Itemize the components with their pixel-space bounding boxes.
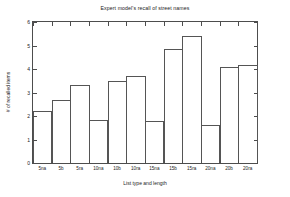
x-tick-label-20ra: 20ra (243, 166, 252, 171)
y-tick-label-1: 1 (27, 137, 30, 143)
y-tick-right-1 (254, 140, 258, 141)
y-tick-label-2: 2 (27, 113, 30, 119)
y-tick-label-0: 0 (27, 160, 30, 166)
bar-15b (164, 49, 183, 163)
x-tick-label-10b: 10b (113, 166, 121, 171)
x-tick-top-12 (257, 22, 258, 26)
y-tick-right-3 (254, 93, 258, 94)
y-tick-4 (33, 69, 37, 70)
x-tick-top-10 (220, 22, 221, 26)
x-tick-label-5na: 5na (38, 166, 46, 171)
x-tick-label-10na: 10na (93, 166, 103, 171)
bar-10b (108, 81, 127, 163)
x-tick-top-1 (52, 22, 53, 26)
bar-5ra (70, 85, 89, 163)
x-tick-top-7 (164, 22, 165, 26)
x-tick-top-5 (126, 22, 127, 26)
bar-10ra (126, 76, 145, 163)
x-tick-label-10ra: 10ra (131, 166, 140, 171)
y-tick-3 (33, 93, 37, 94)
x-tick-1 (52, 160, 53, 164)
y-tick-label-4: 4 (27, 66, 30, 72)
bar-series (33, 22, 257, 163)
x-tick-top-11 (238, 22, 239, 26)
x-tick-top-4 (108, 22, 109, 26)
x-tick-label-15ra: 15ra (187, 166, 196, 171)
x-tick-top-0 (33, 22, 34, 26)
y-axis-title: # of recalled items (5, 72, 11, 113)
x-tick-label-15b: 15b (169, 166, 177, 171)
y-tick-0 (33, 163, 37, 164)
x-tick-top-8 (182, 22, 183, 26)
x-tick-0 (33, 160, 34, 164)
x-tick-5 (126, 160, 127, 164)
x-axis-title: List type and length (32, 180, 258, 186)
x-tick-label-5b: 5b (58, 166, 63, 171)
x-tick-4 (108, 160, 109, 164)
y-tick-label-6: 6 (27, 19, 30, 25)
x-tick-label-20b: 20b (225, 166, 233, 171)
bar-5b (52, 100, 71, 163)
x-tick-label-15na: 15na (149, 166, 159, 171)
y-tick-1 (33, 140, 37, 141)
x-tick-2 (70, 160, 71, 164)
x-tick-6 (145, 160, 146, 164)
bar-10na (89, 120, 108, 163)
x-tick-11 (238, 160, 239, 164)
x-tick-label-20na: 20na (205, 166, 215, 171)
x-tick-3 (89, 160, 90, 164)
x-tick-12 (257, 160, 258, 164)
y-tick-right-2 (254, 116, 258, 117)
y-tick-5 (33, 46, 37, 47)
x-tick-7 (164, 160, 165, 164)
bar-20na (201, 125, 220, 163)
y-tick-label-3: 3 (27, 90, 30, 96)
x-tick-10 (220, 160, 221, 164)
y-tick-2 (33, 116, 37, 117)
x-tick-label-5ra: 5ra (76, 166, 83, 171)
figure-canvas: Expert model's recall of street names 01… (0, 0, 290, 197)
bar-15na (145, 121, 164, 163)
x-tick-top-2 (70, 22, 71, 26)
x-tick-top-6 (145, 22, 146, 26)
x-tick-9 (201, 160, 202, 164)
y-tick-right-5 (254, 46, 258, 47)
chart-title: Expert model's recall of street names (0, 5, 290, 11)
y-tick-right-4 (254, 69, 258, 70)
plot-area: 0123456 5na5b5ra10na10b10ra15na15b15ra20… (32, 21, 258, 164)
bar-5na (33, 111, 52, 163)
bar-20ra (238, 65, 257, 163)
bar-15ra (182, 36, 201, 163)
x-tick-8 (182, 160, 183, 164)
y-tick-right-0 (254, 163, 258, 164)
y-tick-label-5: 5 (27, 43, 30, 49)
x-tick-top-3 (89, 22, 90, 26)
x-tick-top-9 (201, 22, 202, 26)
bar-20b (220, 67, 239, 163)
